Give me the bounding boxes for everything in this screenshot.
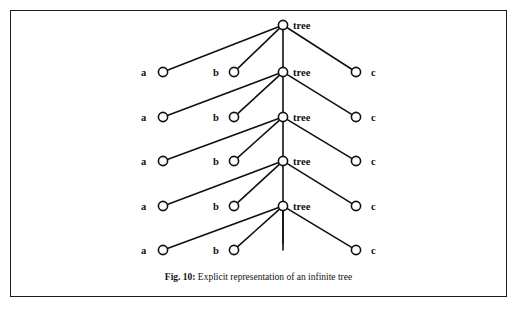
leaf-node-label-c: c (371, 68, 376, 79)
leaf-node-label-b: b (213, 202, 219, 213)
leaf-node-label-c: c (371, 202, 376, 213)
figure-caption-text: Explicit representation of an infinite t… (198, 272, 352, 282)
leaf-node-label-a: a (141, 202, 146, 213)
leaf-node-label-a: a (141, 113, 146, 124)
tree-node-label: tree (293, 157, 310, 168)
tree-node-label: tree (293, 21, 310, 32)
figure-caption: Fig. 10: Explicit representation of an i… (10, 272, 507, 283)
tree-node-label: tree (293, 68, 310, 79)
leaf-node-label-b: b (213, 246, 219, 257)
leaf-node-label-c: c (371, 157, 376, 168)
leaf-node-label-a: a (141, 68, 146, 79)
leaf-node-label-b: b (213, 157, 219, 168)
figure-border-frame (10, 10, 507, 297)
leaf-node-label-b: b (213, 113, 219, 124)
figure-page: treetreeabctreeabctreeabctreeabcabc Fig.… (0, 0, 520, 313)
leaf-node-label-c: c (371, 246, 376, 257)
leaf-node-label-a: a (141, 157, 146, 168)
figure-caption-number: Fig. 10: (165, 272, 196, 282)
tree-node-label: tree (293, 113, 310, 124)
tree-node-label: tree (293, 202, 310, 213)
leaf-node-label-b: b (213, 68, 219, 79)
leaf-node-label-c: c (371, 113, 376, 124)
leaf-node-label-a: a (141, 246, 146, 257)
